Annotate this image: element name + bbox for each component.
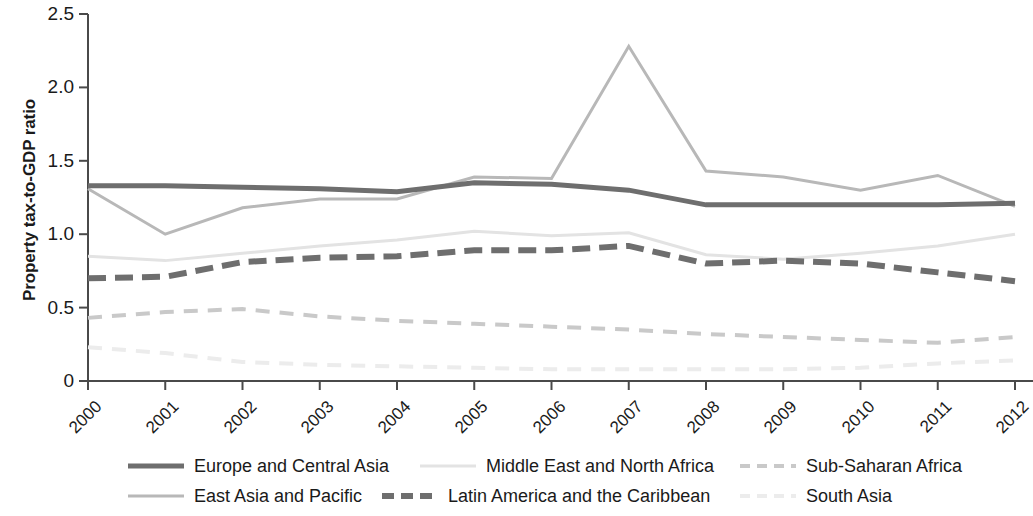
legend-label: East Asia and Pacific	[194, 486, 362, 507]
legend-item[interactable]: Europe and Central Asia	[128, 452, 389, 480]
x-axis-tick-label: 2006	[514, 397, 569, 452]
chart-page: Property tax-to-GDP ratio 2.52.01.51.00.…	[0, 0, 1033, 516]
x-axis-tick-label: 2005	[437, 397, 492, 452]
legend-line-swatch	[128, 489, 184, 503]
x-axis-tick-label: 2004	[360, 397, 415, 452]
x-axis-tick-label: 2000	[51, 397, 106, 452]
x-axis-tick-label: 2001	[128, 397, 183, 452]
x-axis-tick-label: 2011	[901, 397, 956, 452]
legend-item[interactable]: East Asia and Pacific	[128, 482, 362, 510]
legend-label: Middle East and North Africa	[486, 456, 714, 477]
x-axis-tick-label: 2010	[823, 397, 878, 452]
chart-legend: Europe and Central AsiaMiddle East and N…	[0, 452, 1033, 516]
x-axis-tick-label: 2009	[746, 397, 801, 452]
legend-label: Sub-Saharan Africa	[806, 456, 962, 477]
legend-row-2: East Asia and PacificLatin America and t…	[0, 482, 1033, 510]
legend-item[interactable]: Middle East and North Africa	[420, 452, 714, 480]
x-axis-tick-labels: 2000200120022003200420052006200720082009…	[0, 0, 1033, 460]
legend-label: South Asia	[806, 486, 892, 507]
legend-line-swatch	[740, 459, 796, 473]
legend-line-swatch	[128, 459, 184, 473]
legend-item[interactable]: Latin America and the Caribbean	[382, 482, 710, 510]
x-axis-tick-label: 2003	[283, 397, 338, 452]
legend-label: Europe and Central Asia	[194, 456, 389, 477]
legend-item[interactable]: Sub-Saharan Africa	[740, 452, 962, 480]
legend-line-swatch	[420, 459, 476, 473]
legend-row-1: Europe and Central AsiaMiddle East and N…	[0, 452, 1033, 480]
legend-item[interactable]: South Asia	[740, 482, 892, 510]
x-axis-tick-label: 2002	[205, 397, 260, 452]
x-axis-tick-label: 2007	[592, 397, 647, 452]
x-axis-tick-label: 2012	[978, 397, 1033, 452]
legend-label: Latin America and the Caribbean	[448, 486, 710, 507]
legend-line-swatch	[382, 489, 438, 503]
chart-plot-area: Property tax-to-GDP ratio 2.52.01.51.00.…	[0, 0, 1033, 460]
x-axis-tick-label: 2008	[669, 397, 724, 452]
legend-line-swatch	[740, 489, 796, 503]
